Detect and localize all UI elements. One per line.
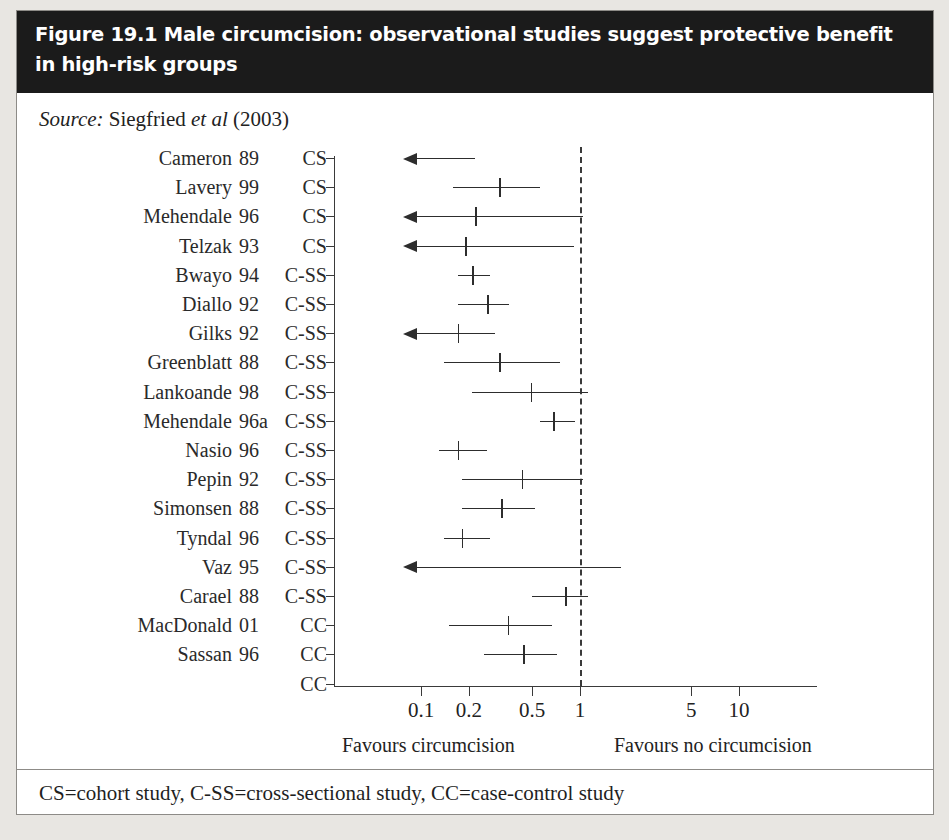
point-estimate-marker [499, 353, 501, 372]
y-axis-tick [326, 625, 334, 626]
study-design-label: C-SS [273, 496, 327, 520]
x-axis-tick [532, 687, 533, 696]
study-design-label: C-SS [273, 467, 327, 491]
confidence-interval-line [449, 625, 552, 626]
study-design-label: C-SS [273, 526, 327, 550]
study-name-label: Vaz [41, 555, 232, 579]
y-axis-tick [326, 275, 334, 276]
study-name-label: Sassan [41, 642, 232, 666]
x-axis-tick [739, 687, 740, 696]
y-axis-tick [326, 158, 334, 159]
point-estimate-marker [553, 412, 555, 431]
confidence-interval-line [444, 538, 489, 539]
y-axis-tick [326, 216, 334, 217]
point-estimate-marker [458, 324, 460, 343]
study-design-label: CS [273, 234, 327, 258]
y-axis-tick [326, 538, 334, 539]
study-design-label: CC [273, 642, 327, 666]
study-design-label: C-SS [273, 438, 327, 462]
point-estimate-marker [487, 295, 489, 314]
x-axis-tick [580, 687, 581, 696]
x-axis-tick-label: 0.2 [439, 698, 499, 723]
study-design-label: CS [273, 175, 327, 199]
study-name-label: Gilks [41, 321, 232, 345]
y-axis-tick [326, 479, 334, 480]
x-axis-line [334, 686, 817, 687]
forest-plot: 0.10.20.51510Cameron89CSLavery99CSMehend… [17, 11, 935, 816]
study-name-label: Mehendale [41, 409, 232, 433]
confidence-interval-line [458, 304, 510, 305]
confidence-interval-line [416, 216, 583, 217]
favours-left-label: Favours circumcision [342, 734, 515, 757]
study-name-label: Cameron [41, 146, 232, 170]
null-effect-line [580, 147, 582, 686]
favours-right-label: Favours no circumcision [614, 734, 812, 757]
confidence-interval-line [532, 596, 588, 597]
confidence-interval-line [444, 362, 560, 363]
study-design-label: C-SS [273, 350, 327, 374]
point-estimate-marker [462, 529, 464, 548]
left-arrow-icon [403, 561, 417, 573]
confidence-interval-line [416, 567, 621, 568]
study-name-label: Lavery [41, 175, 232, 199]
confidence-interval-line [453, 187, 540, 188]
confidence-interval-line [462, 508, 535, 509]
left-arrow-icon [403, 328, 417, 340]
point-estimate-marker [531, 383, 533, 402]
study-name-label: Telzak [41, 234, 232, 258]
y-axis-tick [326, 333, 334, 334]
study-name-label: Diallo [41, 292, 232, 316]
study-design-label: C-SS [273, 321, 327, 345]
y-axis-tick [326, 392, 334, 393]
y-axis-tick [326, 508, 334, 509]
point-estimate-marker [472, 266, 474, 285]
y-axis-tick [326, 567, 334, 568]
study-name-label: Nasio [41, 438, 232, 462]
study-name-label: Tyndal [41, 526, 232, 550]
page-background: Figure 19.1 Male circumcision: observati… [0, 0, 949, 840]
y-axis-tick [326, 421, 334, 422]
study-name-label: Bwayo [41, 263, 232, 287]
study-name-label: Greenblatt [41, 350, 232, 374]
left-arrow-icon [403, 240, 417, 252]
point-estimate-marker [508, 616, 510, 635]
study-name-label: Carael [41, 584, 232, 608]
study-name-label: Mehendale [41, 204, 232, 228]
x-axis-tick-label: 10 [709, 698, 769, 723]
point-estimate-marker [458, 441, 460, 460]
study-name-label: Pepin [41, 467, 232, 491]
point-estimate-marker [565, 587, 567, 606]
y-axis-tick [326, 654, 334, 655]
y-axis-tick [326, 246, 334, 247]
study-design-label: C-SS [273, 380, 327, 404]
point-estimate-marker [465, 237, 467, 256]
point-estimate-marker [523, 645, 525, 664]
point-estimate-marker [522, 470, 524, 489]
left-arrow-icon [403, 211, 417, 223]
study-design-label: C-SS [273, 555, 327, 579]
y-axis-tick [326, 684, 334, 685]
y-axis-spine [334, 156, 335, 686]
study-design-label: CS [273, 204, 327, 228]
study-name-label: Simonsen [41, 496, 232, 520]
study-design-label: CC [273, 672, 327, 696]
confidence-interval-line [540, 421, 575, 422]
y-axis-tick [326, 187, 334, 188]
study-name-label: Lankoande [41, 380, 232, 404]
y-axis-tick [326, 304, 334, 305]
confidence-interval-line [484, 654, 557, 655]
study-design-label: CC [273, 613, 327, 637]
y-axis-tick [326, 596, 334, 597]
x-axis-tick-label: 1 [550, 698, 610, 723]
footer-divider [17, 769, 933, 770]
study-design-label: C-SS [273, 263, 327, 287]
figure-card: Figure 19.1 Male circumcision: observati… [16, 10, 934, 815]
confidence-interval-line [416, 158, 475, 159]
left-arrow-icon [403, 153, 417, 165]
study-design-label: C-SS [273, 409, 327, 433]
confidence-interval-line [416, 246, 574, 247]
x-axis-tick [691, 687, 692, 696]
x-axis-tick [469, 687, 470, 696]
y-axis-tick [326, 450, 334, 451]
study-design-label: C-SS [273, 584, 327, 608]
